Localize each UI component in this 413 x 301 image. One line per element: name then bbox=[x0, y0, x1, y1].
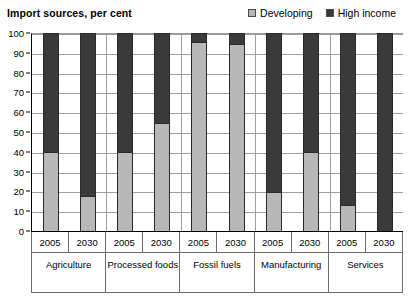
x-axis-group-cell: Processed foods bbox=[106, 253, 180, 292]
x-axis-year-cell: 2030 bbox=[217, 232, 254, 252]
x-axis-year-cell: 2005 bbox=[329, 232, 366, 252]
bar-column[interactable] bbox=[303, 33, 319, 231]
y-axis-tick-label: 90 bbox=[13, 47, 24, 58]
bar-segment-high-income bbox=[304, 34, 318, 152]
y-axis-tick-label: 40 bbox=[13, 146, 24, 157]
plot-wrapper: 1009080706050403020100 bbox=[0, 28, 413, 238]
bars-layer bbox=[32, 34, 403, 231]
y-axis-tick-mark bbox=[26, 72, 30, 73]
stacked-bar-chart: Import sources, per cent DevelopingHigh … bbox=[0, 0, 413, 301]
x-axis-year-cell: 2030 bbox=[292, 232, 329, 252]
bar-segment-high-income bbox=[118, 34, 132, 152]
y-axis-tick-mark bbox=[26, 211, 30, 212]
x-axis-year-cell: 2005 bbox=[106, 232, 143, 252]
bar-segment-high-income bbox=[81, 34, 95, 196]
plot-area bbox=[31, 33, 403, 232]
square-swatch-icon bbox=[248, 9, 256, 17]
y-axis-tick-label: 100 bbox=[8, 28, 24, 39]
bar-segment-developing bbox=[192, 42, 206, 231]
legend-label: Developing bbox=[260, 7, 313, 19]
bar-segment-developing bbox=[267, 192, 281, 231]
bar-segment-high-income bbox=[44, 34, 58, 152]
bar-column[interactable] bbox=[154, 33, 170, 231]
bar-segment-high-income bbox=[378, 34, 392, 231]
x-axis-year-cell: 2005 bbox=[180, 232, 217, 252]
x-axis-group-row: AgricultureProcessed foodsFossil fuelsMa… bbox=[31, 253, 403, 293]
x-axis-year-cell: 2030 bbox=[366, 232, 403, 252]
bar-segment-developing bbox=[155, 123, 169, 231]
y-axis: 1009080706050403020100 bbox=[0, 28, 30, 238]
y-axis-tick-label: 80 bbox=[13, 67, 24, 78]
y-axis-tick-label: 50 bbox=[13, 127, 24, 138]
y-axis-tick-mark bbox=[26, 92, 30, 93]
square-swatch-icon bbox=[326, 9, 334, 17]
page-title: Import sources, per cent bbox=[7, 7, 132, 19]
bar-column[interactable] bbox=[43, 33, 59, 231]
bar-segment-high-income bbox=[192, 34, 206, 42]
y-axis-tick-mark bbox=[26, 231, 30, 232]
y-axis-tick-mark bbox=[26, 151, 30, 152]
y-axis-tick-label: 20 bbox=[13, 186, 24, 197]
bar-segment-developing bbox=[118, 152, 132, 231]
bar-segment-developing bbox=[304, 152, 318, 231]
chart-header: Import sources, per cent DevelopingHigh … bbox=[0, 0, 413, 28]
x-axis-year-cell: 2005 bbox=[32, 232, 69, 252]
bar-column[interactable] bbox=[80, 33, 96, 231]
x-axis-group-cell: Agriculture bbox=[32, 253, 106, 292]
bar-segment-high-income bbox=[230, 34, 244, 44]
bar-segment-high-income bbox=[155, 34, 169, 123]
legend-entry: Developing bbox=[248, 7, 313, 19]
bar-segment-high-income bbox=[341, 34, 355, 205]
y-axis-tick-mark bbox=[26, 132, 30, 133]
bar-column[interactable] bbox=[191, 33, 207, 231]
x-axis-year-cell: 2030 bbox=[143, 232, 180, 252]
y-axis-tick-mark bbox=[26, 171, 30, 172]
y-axis-tick-label: 0 bbox=[19, 226, 24, 237]
bar-segment-developing bbox=[44, 152, 58, 231]
x-axis: 2005203020052030200520302005203020052030… bbox=[31, 232, 403, 294]
legend-label: High income bbox=[338, 7, 396, 19]
chart-legend: DevelopingHigh income bbox=[248, 7, 396, 19]
bar-column[interactable] bbox=[117, 33, 133, 231]
bar-segment-high-income bbox=[267, 34, 281, 192]
bar-segment-developing bbox=[341, 205, 355, 231]
y-axis-tick-mark bbox=[26, 52, 30, 53]
y-axis-tick-label: 10 bbox=[13, 206, 24, 217]
bar-column[interactable] bbox=[340, 33, 356, 231]
bar-segment-developing bbox=[230, 44, 244, 231]
x-axis-year-cell: 2005 bbox=[255, 232, 292, 252]
x-axis-group-cell: Fossil fuels bbox=[180, 253, 254, 292]
bar-column[interactable] bbox=[266, 33, 282, 231]
y-axis-tick-label: 30 bbox=[13, 166, 24, 177]
x-axis-group-cell: Manufacturing bbox=[255, 253, 329, 292]
x-axis-group-cell: Services bbox=[329, 253, 403, 292]
bar-column[interactable] bbox=[377, 33, 393, 231]
x-axis-year-cell: 2030 bbox=[69, 232, 106, 252]
bar-segment-developing bbox=[81, 196, 95, 231]
y-axis-tick-label: 70 bbox=[13, 87, 24, 98]
bar-column[interactable] bbox=[229, 33, 245, 231]
y-axis-tick-mark bbox=[26, 33, 30, 34]
y-axis-tick-label: 60 bbox=[13, 107, 24, 118]
legend-entry: High income bbox=[326, 7, 396, 19]
x-axis-year-row: 2005203020052030200520302005203020052030 bbox=[31, 232, 403, 253]
y-axis-tick-mark bbox=[26, 191, 30, 192]
y-axis-tick-mark bbox=[26, 112, 30, 113]
